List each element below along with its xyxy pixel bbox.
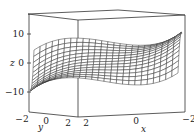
x-tick-label: 2	[83, 118, 89, 128]
x-axis-label: x	[141, 124, 146, 134]
z-axis: 10 0 −10 z	[5, 29, 31, 97]
y-tick-label: 0	[43, 116, 49, 126]
z-axis-label: z	[9, 58, 15, 68]
x-tick-label: 0	[133, 116, 139, 126]
y-axis: −2 0 2 y	[15, 114, 71, 132]
y-tick-label: −2	[15, 114, 28, 124]
x-tick-label: −2	[182, 114, 194, 124]
y-tick-label: 2	[65, 118, 71, 128]
surface-mesh	[30, 32, 182, 90]
y-axis-label: y	[37, 122, 44, 132]
surface-plot: 10 0 −10 z −2 0 2 y 2 0 −2 x	[0, 0, 194, 138]
z-tick-label: −10	[5, 87, 24, 97]
z-tick-label: 10	[13, 29, 25, 39]
z-tick-label: 0	[18, 58, 24, 68]
x-axis: 2 0 −2 x	[83, 114, 194, 134]
